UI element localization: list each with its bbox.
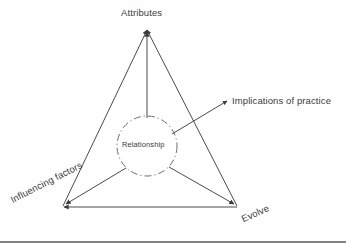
triangle-outline: [63, 30, 237, 207]
node-label-attributes: Attributes: [121, 8, 162, 18]
edge-influencing-to-attributes: [63, 30, 147, 206]
callout-label-implications-of-practice: Implications of practice: [232, 96, 331, 106]
center-label-relationship: Relationship: [122, 141, 164, 149]
implications-arrow: [172, 101, 227, 134]
diagram-canvas: Attributes Influencing factors Evolve Re…: [0, 0, 346, 250]
spoke-relationship-to-evolve: [169, 167, 234, 204]
diagram-graphics: [0, 0, 346, 250]
center-spokes: [66, 32, 234, 204]
